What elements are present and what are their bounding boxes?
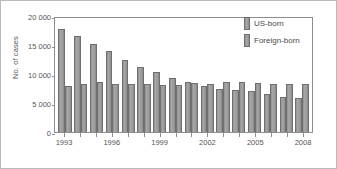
bar-foreign-born-1993 bbox=[65, 86, 72, 132]
bar-group bbox=[73, 18, 89, 132]
bar-group bbox=[168, 18, 184, 132]
x-axis-tick-mark bbox=[223, 133, 224, 137]
bar-foreign-born-2003 bbox=[223, 82, 230, 132]
bar-foreign-born-2006 bbox=[270, 84, 277, 132]
legend-swatch-icon bbox=[244, 34, 250, 47]
chart-legend: US-born Foreign-born bbox=[244, 17, 300, 47]
legend-label: US-born bbox=[254, 20, 284, 28]
x-axis-tick-label: 2002 bbox=[199, 139, 216, 147]
bar-us-born-1993 bbox=[58, 29, 65, 132]
x-axis-tick-mark bbox=[64, 133, 65, 137]
x-axis-tick-mark bbox=[160, 133, 161, 137]
legend-item-foreign-born: Foreign-born bbox=[244, 34, 300, 47]
bar-foreign-born-2001 bbox=[191, 83, 198, 132]
x-axis-tick-mark bbox=[303, 133, 304, 137]
bar-us-born-2000 bbox=[169, 78, 176, 132]
bar-foreign-born-2007 bbox=[286, 84, 293, 132]
bar-group bbox=[184, 18, 200, 132]
x-axis-tick-mark bbox=[128, 133, 129, 137]
bar-us-born-1998 bbox=[137, 67, 144, 132]
bar-foreign-born-2000 bbox=[176, 85, 183, 132]
x-axis-tick-mark bbox=[80, 133, 81, 137]
x-axis-tick-label: 2008 bbox=[295, 139, 312, 147]
bar-foreign-born-1999 bbox=[160, 85, 167, 132]
bar-group bbox=[104, 18, 120, 132]
x-axis-tick-mark bbox=[287, 133, 288, 137]
y-axis-tick-label: 5 000 bbox=[32, 101, 51, 109]
bar-foreign-born-2002 bbox=[207, 84, 214, 132]
x-axis-tick-mark bbox=[239, 133, 240, 137]
bar-foreign-born-2004 bbox=[239, 82, 246, 132]
bar-group bbox=[152, 18, 168, 132]
x-axis-tick-mark bbox=[112, 133, 113, 137]
bar-us-born-2008 bbox=[295, 98, 302, 132]
x-axis-tick-mark bbox=[255, 133, 256, 137]
bar-foreign-born-2008 bbox=[302, 84, 309, 132]
y-axis-title: No. of cases bbox=[11, 22, 20, 94]
bar-group bbox=[120, 18, 136, 132]
bar-us-born-2005 bbox=[248, 91, 255, 132]
x-axis-tick-label: 2005 bbox=[247, 139, 264, 147]
bar-group bbox=[57, 18, 73, 132]
y-axis-tick-label: 10 000 bbox=[28, 72, 51, 80]
bar-foreign-born-1996 bbox=[112, 84, 119, 132]
bar-us-born-2003 bbox=[216, 89, 223, 132]
bar-foreign-born-1994 bbox=[81, 84, 88, 132]
bar-us-born-2006 bbox=[264, 94, 271, 132]
bar-foreign-born-1997 bbox=[128, 84, 135, 132]
x-axis-tick-label: 1996 bbox=[103, 139, 120, 147]
bar-us-born-1996 bbox=[106, 51, 113, 132]
legend-swatch-icon bbox=[244, 17, 250, 30]
bar-us-born-2002 bbox=[201, 86, 208, 132]
bar-us-born-1994 bbox=[74, 36, 81, 132]
x-axis-tick-label: 1993 bbox=[56, 139, 73, 147]
figure-panel: No. of cases 05 00010 00015 00020 000 19… bbox=[0, 0, 337, 169]
bar-group bbox=[215, 18, 231, 132]
bar-foreign-born-1995 bbox=[97, 82, 104, 132]
y-axis-tick-label: 0 bbox=[47, 130, 51, 138]
x-axis-tick-mark bbox=[144, 133, 145, 137]
bar-us-born-2004 bbox=[232, 90, 239, 132]
x-axis-tick-mark bbox=[271, 133, 272, 137]
bar-group bbox=[89, 18, 105, 132]
bar-foreign-born-1998 bbox=[144, 84, 151, 132]
y-axis-tick-label: 20 000 bbox=[28, 14, 51, 22]
legend-label: Foreign-born bbox=[254, 37, 300, 45]
bar-us-born-2001 bbox=[185, 82, 192, 132]
legend-item-us-born: US-born bbox=[244, 17, 300, 30]
x-axis-tick-mark bbox=[207, 133, 208, 137]
x-axis-labels: 199319961999200220052008 bbox=[54, 139, 313, 151]
bar-us-born-1999 bbox=[153, 72, 160, 132]
bar-us-born-1997 bbox=[122, 60, 129, 133]
x-axis-tick-mark bbox=[96, 133, 97, 137]
bar-us-born-1995 bbox=[90, 44, 97, 132]
y-axis-tick-label: 15 000 bbox=[28, 43, 51, 51]
bar-group bbox=[136, 18, 152, 132]
bar-us-born-2007 bbox=[280, 97, 287, 132]
bar-foreign-born-2005 bbox=[255, 83, 262, 132]
x-axis-tick-mark bbox=[191, 133, 192, 137]
bar-group bbox=[199, 18, 215, 132]
x-axis-tick-label: 1999 bbox=[151, 139, 168, 147]
x-axis-tick-mark bbox=[176, 133, 177, 137]
